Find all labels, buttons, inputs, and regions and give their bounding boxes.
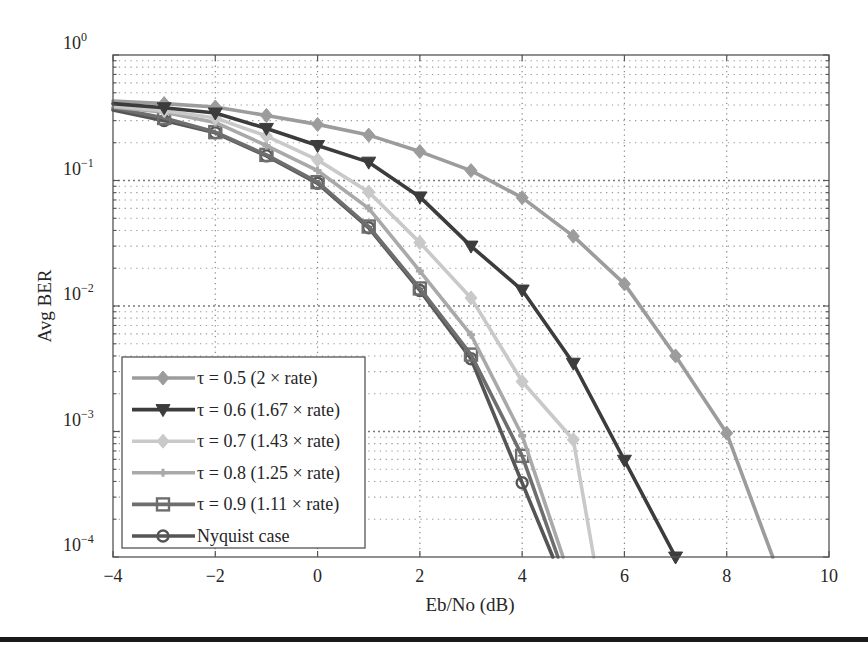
y-tick-label: 10−4: [63, 532, 94, 555]
y-tick-label: 10−1: [63, 156, 94, 179]
y-tick-label: 10−2: [63, 281, 94, 304]
legend-label: τ = 0.8 (1.25 × rate): [197, 463, 340, 484]
legend-label: τ = 0.5 (2 × rate): [197, 368, 318, 389]
legend-label: τ = 0.7 (1.43 × rate): [197, 431, 340, 452]
x-axis-label: Eb/No (dB): [425, 594, 514, 616]
diamond-marker-icon: [465, 164, 477, 178]
y-tick-label: 100: [63, 30, 87, 53]
triangle-down-marker-icon: [669, 552, 683, 564]
x-axis-tick-labels: −4−20246810: [103, 566, 838, 586]
x-tick-label: −2: [206, 566, 225, 586]
x-tick-label: 8: [722, 566, 731, 586]
legend-label: τ = 0.6 (1.67 × rate): [197, 400, 340, 421]
x-tick-label: 2: [415, 566, 424, 586]
x-tick-label: −4: [103, 566, 122, 586]
legend: τ = 0.5 (2 × rate)τ = 0.6 (1.67 × rate)τ…: [122, 357, 365, 548]
x-tick-label: 4: [518, 566, 527, 586]
x-tick-label: 0: [313, 566, 322, 586]
legend-label: Nyquist case: [197, 526, 289, 546]
x-tick-label: 6: [620, 566, 629, 586]
diamond-marker-icon: [414, 145, 426, 159]
y-tick-label: 10−3: [63, 407, 94, 430]
y-axis-tick-labels: 10010−110−210−310−4: [63, 30, 94, 555]
diamond-marker-icon: [312, 153, 324, 167]
legend-label: τ = 0.9 (1.11 × rate): [197, 494, 339, 515]
ber-chart-figure: −4−20246810 10010−110−210−310−4 Eb/No (d…: [0, 0, 868, 659]
x-tick-label: 10: [820, 566, 838, 586]
chart-canvas: −4−20246810 10010−110−210−310−4 Eb/No (d…: [0, 0, 868, 659]
diamond-marker-icon: [363, 128, 375, 142]
y-axis-label: Avg BER: [34, 269, 55, 342]
triangle-down-marker-icon: [566, 358, 580, 370]
page-divider-rule: [0, 637, 868, 642]
triangle-down-marker-icon: [617, 455, 631, 467]
diamond-marker-icon: [312, 117, 324, 131]
